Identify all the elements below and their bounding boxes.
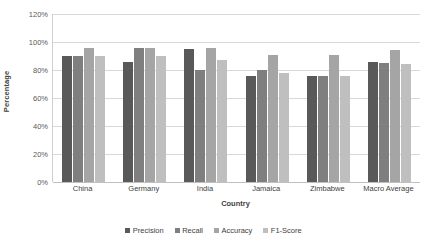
bar-f1-score [279,73,289,182]
bar-accuracy [268,55,278,182]
bar-precision [62,56,72,182]
bar-f1-score [401,64,411,182]
legend-label: F1-Score [271,226,302,235]
y-axis-tick: 40% [33,122,48,131]
bar-chart: Percentage 0%20%40%60%80%100%120% ChinaG… [0,0,427,248]
legend-item[interactable]: Recall [175,226,203,235]
axis-baseline [53,182,420,183]
bar-accuracy [329,55,339,182]
y-axis-title: Percentage [0,0,14,182]
bar-group [359,14,420,182]
x-axis-tick: Macro Average [358,184,419,198]
bar-precision [123,62,133,182]
bar-recall [73,56,83,182]
x-axis-tick: Jamaica [236,184,297,198]
bar-recall [318,76,328,182]
y-axis-tick: 80% [33,66,48,75]
legend-item[interactable]: Precision [125,226,163,235]
y-axis-tick: 60% [33,94,48,103]
legend-swatch-icon [175,228,180,233]
bar-precision [307,76,317,182]
bar-accuracy [390,50,400,182]
bar-group [237,14,298,182]
y-axis-title-label: Percentage [3,70,12,111]
bar-f1-score [217,60,227,182]
bar-group [114,14,175,182]
x-axis-tick: Germany [113,184,174,198]
bar-accuracy [206,48,216,182]
y-axis-tick-labels: 0%20%40%60%80%100%120% [14,14,52,182]
bar-group [298,14,359,182]
legend-label: Precision [133,226,164,235]
x-axis-tick: India [174,184,235,198]
y-axis-tick: 0% [37,178,48,187]
bar-recall [195,70,205,182]
bar-groups [53,14,420,182]
legend-item[interactable]: F1-Score [263,226,301,235]
legend-swatch-icon [125,228,130,233]
bar-f1-score [340,76,350,182]
y-axis-tick: 100% [29,38,48,47]
bar-precision [184,49,194,182]
bar-f1-score [156,56,166,182]
legend-swatch-icon [263,228,268,233]
bar-recall [257,70,267,182]
bar-accuracy [145,48,155,182]
bar-group [175,14,236,182]
bar-precision [246,76,256,182]
x-axis-tick: China [52,184,113,198]
legend-item[interactable]: Accuracy [214,226,252,235]
y-axis-tick: 120% [29,10,48,19]
legend-label: Accuracy [222,226,253,235]
x-axis-title-label: Country [221,199,250,208]
bar-recall [134,48,144,182]
plot-area [52,14,420,182]
bar-group [53,14,114,182]
bar-precision [368,62,378,182]
bar-f1-score [95,56,105,182]
x-axis-tick-labels: ChinaGermanyIndiaJamaicaZimbabweMacro Av… [52,184,419,198]
chart-legend: PrecisionRecallAccuracyF1-Score [0,226,427,235]
x-axis-title: Country [52,199,419,208]
bar-accuracy [84,48,94,182]
y-axis-tick: 20% [33,150,48,159]
x-axis-tick: Zimbabwe [297,184,358,198]
bar-recall [379,63,389,182]
legend-label: Recall [182,226,203,235]
legend-swatch-icon [214,228,219,233]
